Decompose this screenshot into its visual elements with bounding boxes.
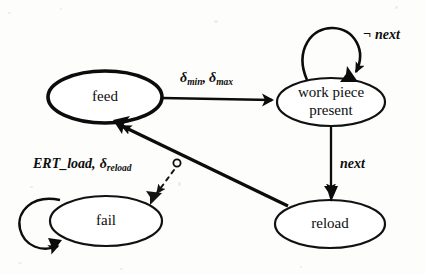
delta-reload-subscript: reload — [107, 163, 132, 173]
node-fail[interactable]: fail — [50, 196, 162, 246]
svg-text:ERT_load,δreload: ERT_load,δreload — [32, 156, 132, 173]
diagram-canvas: feed work piece present fail reload — [0, 0, 425, 275]
node-work-piece-present[interactable]: work piece present — [277, 78, 385, 126]
arrowhead-self-loop-work-piece-present — [340, 66, 358, 82]
branch-point-dot — [173, 159, 180, 166]
ert-load-text: ERT_load, — [32, 156, 96, 171]
edge-label-next: next — [340, 156, 366, 171]
edge-feed-to-work-piece-present — [162, 98, 272, 100]
edge-reload-to-feed — [122, 126, 288, 206]
delta-min-subscript: min — [187, 77, 202, 87]
node-work-piece-present-label-line2: present — [309, 102, 353, 118]
not-next-text: ¬ next — [363, 27, 401, 42]
delta-separator: , — [201, 70, 206, 85]
node-reload[interactable]: reload — [275, 200, 385, 248]
node-fail-label: fail — [96, 212, 116, 228]
delta-max-subscript: max — [216, 77, 233, 87]
next-text: next — [340, 156, 366, 171]
edge-label-delta-min-delta-max: δmin,δmax — [180, 70, 233, 87]
edge-label-not-next: ¬ next — [363, 27, 401, 42]
arrowhead-into-fail — [146, 191, 162, 205]
edge-label-ert-load-delta-reload: ERT_load,δreload — [32, 156, 132, 173]
node-feed-label: feed — [92, 88, 118, 104]
delta-max-symbol: δ — [209, 70, 216, 85]
edge-branch-to-fail — [157, 170, 174, 193]
diagram-svg: feed work piece present fail reload — [0, 0, 425, 275]
delta-reload-symbol: δ — [100, 156, 107, 171]
node-feed[interactable]: feed — [48, 71, 162, 123]
arrowhead-self-loop-fail — [48, 238, 62, 253]
node-work-piece-present-label-line1: work piece — [298, 84, 365, 100]
delta-min-symbol: δ — [180, 70, 187, 85]
node-reload-label: reload — [311, 215, 349, 231]
edge-work-piece-present-self-loop — [303, 28, 360, 80]
svg-text:δmin,δmax: δmin,δmax — [180, 70, 233, 87]
